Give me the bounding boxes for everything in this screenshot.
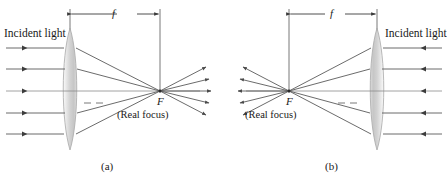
real-focus-note-a: (Real focus) [117, 110, 169, 121]
diverging-rays-b [238, 67, 289, 115]
incident-ray-arrowheads-a [22, 46, 27, 137]
converging-lens-b [370, 28, 384, 150]
incident-ray-arrowheads-b [421, 46, 426, 137]
focal-length-label-a: f [112, 8, 115, 19]
converging-lens-a [63, 28, 77, 150]
focal-point-label-b: F [286, 96, 293, 107]
focal-point-label-a: F [157, 96, 164, 107]
diverging-rays-a [160, 67, 211, 115]
panel-caption-b: (b) [325, 161, 338, 172]
incident-light-label-b: Incident light [385, 28, 447, 40]
panel-caption-a: (a) [101, 161, 113, 172]
real-focus-note-b: (Real focus) [245, 110, 297, 121]
focal-point-a [159, 90, 162, 93]
focal-point-b [288, 90, 291, 93]
incident-light-label-a: Incident light [4, 28, 66, 40]
focal-length-label-b: f [330, 8, 333, 19]
